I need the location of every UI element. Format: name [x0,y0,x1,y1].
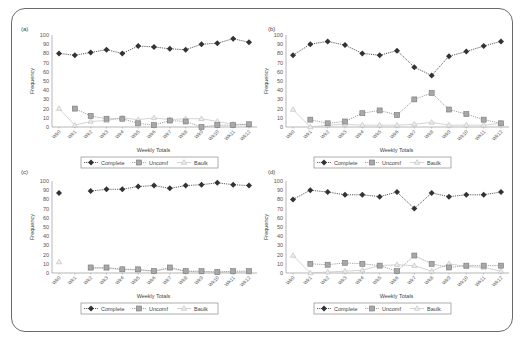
square-marker [464,112,469,117]
x-tick-label: Wk4 [114,274,125,285]
x-tick-label: Wk2 [319,128,330,139]
x-tick-label: Wk1 [66,274,77,285]
diamond-marker [104,186,110,192]
square-marker [499,263,504,268]
diamond-marker [214,180,220,186]
legend-item-complete: Complete [101,160,125,166]
x-tick-label: Wk6 [388,128,399,139]
x-tick-label: Wk2 [82,128,93,139]
x-tick-label: Wk7 [406,274,417,285]
y-axis-label: Frequency [29,68,35,94]
triangle-marker [56,106,61,111]
y-tick-label: 70 [277,60,283,66]
x-axis-label: Weekly Totals [137,147,171,153]
square-marker [167,118,172,123]
y-tick-label: 10 [43,261,49,267]
triangle-marker [394,122,399,127]
square-marker [360,261,365,266]
triangle-marker [360,122,365,127]
x-tick-label: Wk6 [145,274,156,285]
triangle-marker [151,115,156,120]
y-tick-label: 40 [277,233,283,239]
x-tick-label: Wk3 [336,274,347,285]
triangle-marker [325,269,330,274]
y-tick-label: 30 [43,242,49,248]
square-marker [308,261,313,266]
x-axis-label: Weekly Totals [137,293,171,299]
legend-item-uncomf: Uncomf [382,306,401,312]
y-tick-label: 20 [277,252,283,258]
square-marker [377,108,382,113]
diamond-marker [104,47,110,53]
triangle-marker [412,263,417,268]
y-tick-label: 0 [280,124,283,130]
series-uncomf [72,106,251,129]
square-marker [429,90,434,95]
x-tick-label: Wk1 [302,128,313,139]
diamond-marker [119,186,125,192]
diamond-marker [56,50,62,56]
diamond-marker [342,42,348,48]
diamond-marker [246,183,252,189]
diamond-marker [290,52,296,58]
x-tick-label: Wk3 [98,274,109,285]
square-marker [152,123,157,128]
y-tick-label: 50 [43,224,49,230]
y-tick-label: 60 [277,215,283,221]
triangle-marker [464,122,469,127]
series-uncomf [308,253,504,274]
triangle-marker [394,262,399,267]
x-tick-label: Wk4 [114,128,125,139]
series-complete [290,187,504,211]
square-marker [481,263,486,268]
x-tick-label: Wk12 [490,128,503,141]
y-tick-label: 70 [277,206,283,212]
square-marker [215,123,220,128]
line-chart: (a)0102030405060708090100FrequencyWk0Wk1… [0,0,262,170]
square-marker [447,107,452,112]
square-marker [412,253,417,258]
y-tick-label: 90 [43,187,49,193]
legend: CompleteUncomfBaulk [81,157,218,168]
diamond-marker [377,194,383,200]
diamond-marker [463,192,469,198]
y-tick-label: 10 [277,115,283,121]
diamond-marker [246,39,252,45]
x-tick-label: Wk11 [473,274,486,287]
y-axis-label: Frequency [263,68,269,94]
diamond-marker [481,192,487,198]
diamond-marker [429,190,435,196]
x-axis-label: Weekly Totals [380,147,414,153]
square-marker [136,121,141,126]
square-marker [247,269,252,274]
x-tick-label: Wk0 [284,274,295,285]
square-marker [183,269,188,274]
series-complete [290,38,504,78]
line-chart: (d)0102030405060708090100FrequencyWk0Wk1… [262,170,523,340]
diamond-marker [411,64,417,70]
x-tick-label: Wk5 [130,128,141,139]
panel-label: (d) [268,170,275,175]
x-tick-label: Wk11 [473,128,486,141]
y-tick-label: 30 [277,242,283,248]
square-marker [167,265,172,270]
x-tick-label: Wk9 [440,274,451,285]
square-marker [395,269,400,274]
diamond-marker [135,184,141,190]
square-marker [152,269,157,274]
y-tick-label: 20 [43,106,49,112]
square-marker [343,260,348,265]
x-tick-label: Wk9 [193,274,204,285]
diamond-marker [167,185,173,191]
x-tick-label: Wk12 [238,128,251,141]
square-marker [120,267,125,272]
x-tick-label: Wk0 [284,128,295,139]
y-tick-label: 70 [43,206,49,212]
x-tick-label: Wk2 [82,274,93,285]
square-marker [481,117,486,122]
diamond-marker [183,183,189,189]
diamond-marker [342,192,348,198]
square-marker [325,262,330,267]
square-marker [447,265,452,270]
x-tick-label: Wk0 [50,274,61,285]
